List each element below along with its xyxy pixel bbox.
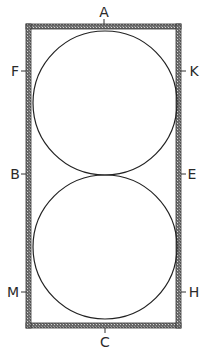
label-f: F [11,63,19,79]
tick-marks [21,19,186,333]
upper-circle [33,31,177,175]
label-e: E [188,166,197,182]
diagram-canvas: A C F B M K E H [0,0,207,357]
label-c: C [100,334,110,350]
frame-right-edge [176,24,181,328]
lower-circle [33,175,177,319]
label-a: A [99,4,109,20]
frame [26,24,181,328]
frame-left-edge [26,24,31,328]
frame-bottom-edge [26,323,181,328]
label-b: B [10,166,20,182]
label-m: M [7,284,19,300]
label-h: H [189,284,200,300]
label-k: K [189,63,199,79]
frame-top-edge [26,24,181,29]
